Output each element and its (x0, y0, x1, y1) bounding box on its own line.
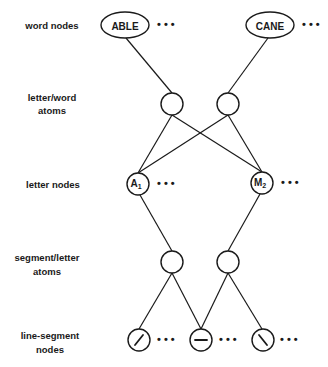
edge-a1-to-sl-atom-1 (140, 195, 172, 251)
letter: A (130, 178, 137, 189)
label-segment-letter-atoms-line1: segment/letter (15, 252, 80, 263)
label-line-segment-nodes-line2: nodes (36, 344, 64, 355)
ellipsis: • • • (280, 333, 298, 345)
word-node-cane: CANE • • • (246, 12, 320, 38)
line-segment-node-slash: • • • (128, 329, 175, 351)
segment-letter-atom-1 (161, 251, 183, 273)
label-letter-nodes: letter nodes (26, 179, 80, 190)
line-segment-node-backslash: • • • (252, 329, 298, 351)
label-line-segment-nodes-line1: line-segment (21, 330, 80, 341)
edge-lw-atom-2-to-m2 (228, 115, 262, 172)
word-node-label: CANE (256, 21, 285, 32)
letter-node-a1: A1 • • • (127, 173, 175, 195)
word-node-label: ABLE (111, 21, 139, 32)
edge-lw-atom-1-to-m2 (172, 115, 262, 172)
subscript: 1 (138, 183, 142, 190)
network-diagram: word nodes letter/word atoms letter node… (0, 0, 328, 367)
ellipsis: • • • (157, 177, 175, 189)
label-segment-letter-atoms-line2: atoms (33, 266, 61, 277)
letter: M (254, 177, 262, 188)
ellipsis: • • • (302, 18, 320, 30)
ellipsis: • • • (219, 333, 237, 345)
edge-lw-atom-1-to-a1 (138, 115, 172, 173)
edge-m2-to-sl-atom-2 (228, 194, 260, 251)
letter-word-atom-2 (217, 93, 239, 115)
label-letter-word-atoms-line2: atoms (38, 105, 66, 116)
subscript: 2 (262, 182, 266, 189)
ellipsis: • • • (281, 176, 299, 188)
edge-sl-atom-1-to-seg-slash (139, 273, 172, 329)
letter-node-m2: M2 • • • (251, 172, 299, 194)
edge-able-to-lw-atom-1 (126, 38, 172, 93)
edge-sl-atom-1-to-seg-horizontal (172, 273, 201, 329)
edge-sl-atom-2-to-seg-horizontal (201, 273, 228, 329)
segment-letter-atom-2 (217, 251, 239, 273)
edge-sl-atom-2-to-seg-backslash (228, 273, 262, 329)
line-segment-node-horizontal: • • • (190, 329, 237, 351)
ellipsis: • • • (157, 333, 175, 345)
ellipsis: • • • (157, 18, 175, 30)
letter-word-atom-1 (161, 93, 183, 115)
edge-cane-to-lw-atom-2 (228, 38, 268, 93)
row-labels: word nodes letter/word atoms letter node… (15, 20, 81, 355)
word-node-able: ABLE • • • (101, 12, 175, 38)
label-letter-word-atoms-line1: letter/word (28, 92, 77, 103)
label-word-nodes: word nodes (24, 20, 78, 31)
edge-lw-atom-2-to-a1 (138, 115, 228, 173)
